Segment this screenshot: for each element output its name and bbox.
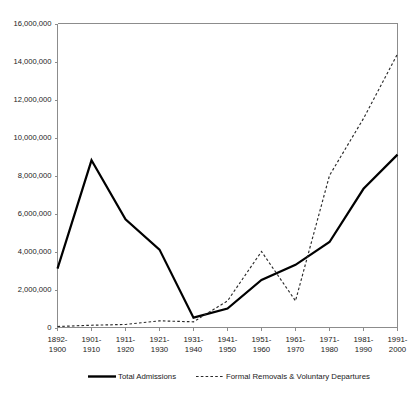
x-tick-label: 1892-1900 <box>48 335 68 355</box>
y-tick-label: 0 <box>47 323 51 332</box>
x-tick-label: 1941-1950 <box>218 335 238 355</box>
y-tick-label: 12,000,000 <box>13 95 51 104</box>
x-tick-label: 1971-1980 <box>320 335 340 355</box>
legend-label: Total Admissions <box>118 372 176 381</box>
plot-frame <box>58 24 398 328</box>
x-tick-label: 1931-1940 <box>184 335 204 355</box>
data-series-group <box>58 54 398 327</box>
y-tick-label: 8,000,000 <box>18 171 52 180</box>
chart-container: 02,000,0004,000,0006,000,0008,000,00010,… <box>0 0 416 394</box>
chart-legend: Total AdmissionsFormal Removals & Volunt… <box>88 372 370 381</box>
x-tick-label: 1981-1990 <box>354 335 374 355</box>
legend-label: Formal Removals & Voluntary Departures <box>226 372 370 381</box>
y-tick-label: 4,000,000 <box>18 247 52 256</box>
x-tick-label: 1911-1920 <box>116 335 136 355</box>
series-line-total-admissions <box>58 155 398 318</box>
line-chart: 02,000,0004,000,0006,000,0008,000,00010,… <box>0 0 416 394</box>
y-tick-label: 6,000,000 <box>18 209 52 218</box>
x-tick-label: 1961-1970 <box>286 335 306 355</box>
x-tick-label: 1901-1910 <box>82 335 102 355</box>
x-axis: 1892-19001901-19101911-19201921-19301931… <box>48 328 408 355</box>
y-axis: 02,000,0004,000,0006,000,0008,000,00010,… <box>13 19 57 332</box>
y-tick-label: 14,000,000 <box>13 57 51 66</box>
y-tick-label: 16,000,000 <box>13 19 51 28</box>
x-tick-label: 1951-1960 <box>252 335 272 355</box>
y-tick-label: 2,000,000 <box>18 285 52 294</box>
y-tick-label: 10,000,000 <box>13 133 51 142</box>
x-tick-label: 1991-2000 <box>388 335 408 355</box>
x-tick-label: 1921-1930 <box>150 335 170 355</box>
